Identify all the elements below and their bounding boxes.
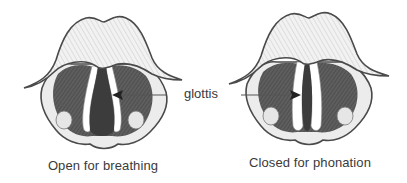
glottis-slit — [302, 64, 312, 131]
caption-closed: Closed for phonation — [249, 155, 371, 170]
larynx-open-illustration — [0, 0, 205, 183]
larynx-panel-closed: Closed for phonation — [205, 0, 407, 183]
caption-open: Open for breathing — [48, 158, 158, 173]
larynx-panel-open: Open for breathing — [0, 0, 205, 183]
